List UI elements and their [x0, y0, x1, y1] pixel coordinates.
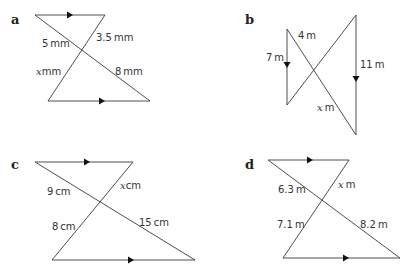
panel-label-b: b	[245, 12, 254, 27]
side-label: 8 mm	[115, 66, 143, 77]
parallel-arrow-icon	[343, 255, 349, 262]
parallel-arrow-icon	[307, 157, 313, 164]
diagonal-line	[283, 160, 349, 258]
diagram-canvas: a 5 mm 3.5 mm xmm 8 mm b 4 m 7 m 11 m x …	[0, 0, 403, 275]
side-label: 3.5 mm	[96, 32, 133, 43]
side-label: 7 m	[266, 52, 284, 63]
side-label-x: x m	[338, 179, 355, 190]
side-label: 6.3 m	[278, 184, 306, 195]
side-label: 4 m	[298, 30, 316, 41]
diagonal-line	[35, 162, 195, 260]
side-label: 5 mm	[42, 38, 70, 49]
parallel-arrow-icon	[99, 98, 105, 105]
panel-c: c 9 cm xcm 8 cm 15 cm	[11, 157, 195, 264]
parallel-arrow-icon	[284, 62, 291, 68]
side-label-x: xcm	[120, 180, 141, 191]
side-label: 8.2 m	[360, 219, 388, 230]
panel-a: a 5 mm 3.5 mm xmm 8 mm	[11, 12, 150, 105]
side-label: 7.1 m	[277, 219, 305, 230]
side-label-x: x m	[317, 102, 334, 113]
diagonal-line	[268, 160, 400, 258]
parallel-arrow-icon	[67, 12, 73, 19]
diagonal-line	[35, 15, 150, 101]
side-label-x: xmm	[36, 66, 61, 77]
parallel-arrow-icon	[353, 76, 360, 82]
diagonal-line	[48, 15, 105, 101]
panel-d: d 6.3 m x m 7.1 m 8.2 m	[245, 157, 400, 262]
panel-label-d: d	[245, 157, 254, 172]
diagonal-line	[287, 29, 356, 135]
parallel-arrow-icon	[84, 159, 90, 166]
side-label: 11 m	[360, 59, 384, 70]
side-label: 9 cm	[47, 186, 71, 197]
diagonal-line	[52, 162, 133, 260]
panel-b: b 4 m 7 m 11 m x m	[245, 12, 384, 135]
panel-label-c: c	[11, 157, 19, 172]
diagonal-line	[287, 15, 356, 105]
similar-triangles-figure: a 5 mm 3.5 mm xmm 8 mm b 4 m 7 m 11 m x …	[0, 0, 403, 275]
side-label: 15 cm	[139, 217, 169, 228]
parallel-arrow-icon	[128, 257, 134, 264]
side-label: 8 cm	[52, 221, 76, 232]
panel-label-a: a	[11, 12, 20, 27]
